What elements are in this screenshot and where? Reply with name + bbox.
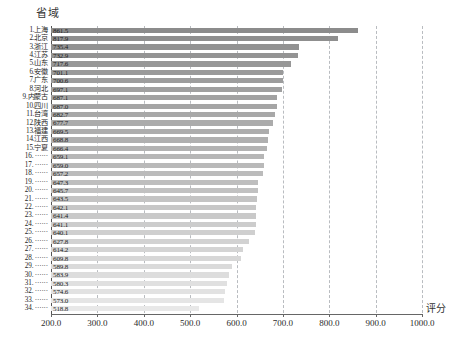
bar[interactable] bbox=[51, 146, 267, 151]
axis-tick bbox=[422, 314, 423, 317]
axis-tick bbox=[51, 314, 52, 317]
axis-tick-label: 200.0 bbox=[41, 318, 61, 328]
bar[interactable] bbox=[51, 247, 243, 252]
bar-row: 640.1 bbox=[51, 230, 422, 235]
bar[interactable] bbox=[51, 163, 264, 168]
axis-tick-label: 1000.0 bbox=[410, 318, 435, 328]
bar-row: 659.0 bbox=[51, 163, 422, 168]
bar-row: 580.3 bbox=[51, 281, 422, 286]
category-label: 34. ······ bbox=[25, 304, 48, 313]
bar[interactable] bbox=[51, 281, 227, 286]
bar[interactable] bbox=[51, 95, 277, 100]
axis-tick bbox=[237, 314, 238, 317]
bar-row: 614.2 bbox=[51, 247, 422, 252]
axis-tick-label: 300.0 bbox=[87, 318, 107, 328]
bar-row: 589.8 bbox=[51, 264, 422, 269]
bar-row: 609.8 bbox=[51, 256, 422, 261]
bar[interactable] bbox=[51, 154, 264, 159]
bar-row: 583.9 bbox=[51, 272, 422, 277]
bar-row: 717.6 bbox=[51, 61, 422, 66]
bar-row: 697.1 bbox=[51, 87, 422, 92]
bar-row: 647.3 bbox=[51, 180, 422, 185]
bar[interactable] bbox=[51, 298, 224, 303]
bar-row: 682.7 bbox=[51, 112, 422, 117]
bar[interactable] bbox=[51, 180, 258, 185]
category-axis-title: 省域 bbox=[36, 4, 60, 20]
axis-tick-label: 800.0 bbox=[319, 318, 339, 328]
horizontal-bar-chart: 省域 861.5817.9735.4732.9717.6701.1700.669… bbox=[0, 0, 450, 339]
bar-row: 735.4 bbox=[51, 44, 422, 49]
bar-row: 677.7 bbox=[51, 120, 422, 125]
bar-row: 668.8 bbox=[51, 137, 422, 142]
bar[interactable] bbox=[51, 205, 256, 210]
axis-tick bbox=[376, 314, 377, 317]
bar[interactable] bbox=[51, 87, 282, 92]
bar-row: 642.1 bbox=[51, 205, 422, 210]
bar[interactable] bbox=[51, 239, 249, 244]
bar-row: 701.1 bbox=[51, 70, 422, 75]
bar-row: 732.9 bbox=[51, 53, 422, 58]
bar[interactable] bbox=[51, 44, 299, 49]
bar[interactable] bbox=[51, 272, 229, 277]
bar[interactable] bbox=[51, 171, 263, 176]
bar-row: 518.8 bbox=[51, 306, 422, 311]
bar-row: 657.2 bbox=[51, 171, 422, 176]
axis-tick bbox=[283, 314, 284, 317]
bar-row: 643.5 bbox=[51, 196, 422, 201]
bar-row: 700.6 bbox=[51, 78, 422, 83]
bar-row: 669.5 bbox=[51, 129, 422, 134]
axis-tick-label: 400.0 bbox=[134, 318, 154, 328]
bar[interactable] bbox=[51, 264, 232, 269]
axis-tick-label: 500.0 bbox=[180, 318, 200, 328]
bar-row: 627.8 bbox=[51, 239, 422, 244]
bar[interactable] bbox=[51, 53, 298, 58]
bar[interactable] bbox=[51, 70, 283, 75]
axis-tick-label: 900.0 bbox=[366, 318, 386, 328]
bar[interactable] bbox=[51, 188, 258, 193]
axis-tick bbox=[144, 314, 145, 317]
bar[interactable] bbox=[51, 306, 199, 311]
axis-tick-label: 700.0 bbox=[273, 318, 293, 328]
gridline bbox=[422, 26, 423, 313]
bar[interactable] bbox=[51, 112, 275, 117]
bar-value-label: 518.8 bbox=[53, 305, 68, 314]
bar[interactable] bbox=[51, 61, 291, 66]
axis-tick bbox=[97, 314, 98, 317]
bar-row: 687.1 bbox=[51, 95, 422, 100]
bar-row: 861.5 bbox=[51, 28, 422, 33]
bar-row: 687.0 bbox=[51, 104, 422, 109]
bar-row: 817.9 bbox=[51, 36, 422, 41]
axis-tick bbox=[190, 314, 191, 317]
bar[interactable] bbox=[51, 104, 277, 109]
bar[interactable] bbox=[51, 78, 283, 83]
bar-row: 641.4 bbox=[51, 213, 422, 218]
bar[interactable] bbox=[51, 120, 273, 125]
bar[interactable] bbox=[51, 213, 256, 218]
bar-row: 666.4 bbox=[51, 146, 422, 151]
bar-row: 641.1 bbox=[51, 222, 422, 227]
bar[interactable] bbox=[51, 137, 268, 142]
bar[interactable] bbox=[51, 36, 338, 41]
bar-row: 645.7 bbox=[51, 188, 422, 193]
bar[interactable] bbox=[51, 289, 225, 294]
axis-tick-label: 600.0 bbox=[226, 318, 246, 328]
bar[interactable] bbox=[51, 196, 257, 201]
bar[interactable] bbox=[51, 28, 358, 33]
bar[interactable] bbox=[51, 230, 255, 235]
bar[interactable] bbox=[51, 222, 256, 227]
value-axis-title: 评分 bbox=[426, 300, 446, 315]
axis-tick bbox=[329, 314, 330, 317]
bar-row: 574.6 bbox=[51, 289, 422, 294]
plot-area: 861.5817.9735.4732.9717.6701.1700.6697.1… bbox=[51, 26, 422, 313]
bar-row: 573.0 bbox=[51, 298, 422, 303]
bar[interactable] bbox=[51, 256, 241, 261]
bar-row: 659.1 bbox=[51, 154, 422, 159]
bar[interactable] bbox=[51, 129, 269, 134]
